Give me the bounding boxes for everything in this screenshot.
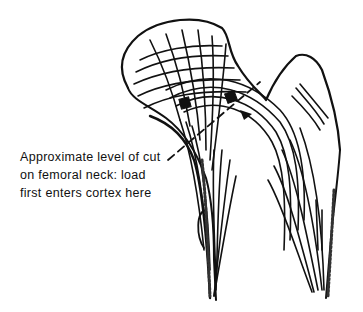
cortex-stipple-right	[328, 190, 334, 296]
femur-medial-cortex	[150, 116, 210, 298]
annotation-line-2: on femoral neck: load	[20, 166, 161, 184]
compressive-trabeculae	[166, 79, 328, 296]
load-marker-2	[225, 91, 238, 104]
load-marker-1	[179, 97, 191, 109]
annotation-line-1: Approximate level of cut	[20, 148, 161, 166]
femur-head-outline	[122, 20, 340, 150]
cut-annotation: Approximate level of cut on femoral neck…	[20, 148, 161, 202]
annotation-line-3: first enters cortex here	[20, 184, 161, 202]
load-arrow	[240, 110, 252, 120]
